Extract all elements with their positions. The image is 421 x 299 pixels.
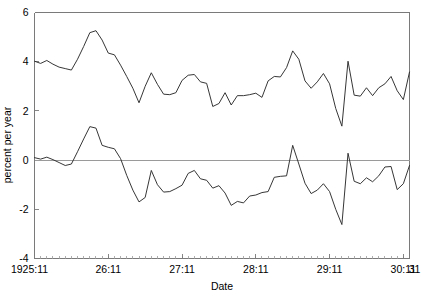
x-tick-label: 26:11 bbox=[96, 263, 122, 275]
y-tick-label: 6 bbox=[23, 6, 29, 18]
y-tick-label: 4 bbox=[23, 55, 29, 67]
x-axis-title: Date bbox=[211, 280, 233, 292]
y-tick-label: -2 bbox=[19, 203, 28, 215]
y-tick-label: 2 bbox=[23, 105, 29, 117]
chart-figure: -4-20246 1925:1126:1127:1128:1129:1130:1… bbox=[0, 0, 421, 299]
x-tick-label: 31 bbox=[409, 263, 421, 275]
x-tick-label: 1925:11 bbox=[11, 263, 48, 275]
x-tick-label: 28:11 bbox=[243, 263, 269, 275]
y-tick-label: 0 bbox=[23, 154, 29, 166]
x-tick-label: 29:11 bbox=[317, 263, 343, 275]
x-tick-label: 27:11 bbox=[169, 263, 195, 275]
y-axis-title: percent per year bbox=[1, 106, 13, 183]
chart-background bbox=[0, 0, 421, 299]
